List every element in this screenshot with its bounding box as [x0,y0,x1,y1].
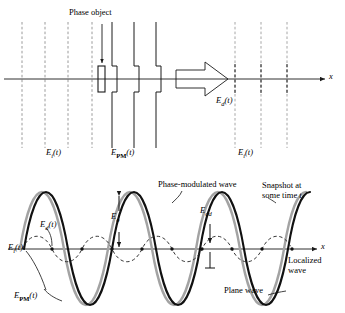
output-wavefront-stubs [235,64,287,95]
incident-field-label: Ei(t) [46,148,61,159]
snapshot-annotation: Snapshot at some time t [262,181,302,201]
phase-object-label: Phase object [69,8,112,18]
pm-field-label: EPM(t) [111,148,134,159]
phase-modulated-wavefronts [112,22,161,148]
incident-wavefronts [22,22,92,148]
top-axis-label: x [329,72,333,82]
diffracted-field-label: Ed(t) [216,96,232,107]
bottom-axis-label: x [321,242,325,252]
leader-Ei [26,251,46,290]
leader-Epm [44,289,62,301]
pm-wave-curve-label: EPM(t) [14,291,37,302]
amplitude-Eod-arrow [205,224,215,268]
diffracted-wave-curve-label: Ed(t) [40,220,56,231]
phase-modulated-wave-annotation: Phase-modulated wave [158,180,237,190]
figure-root: Phase object Ei(t) EPM(t) Ed(t) Ei(t) x … [0,0,345,313]
leader-phase-modulated [172,191,182,203]
incident-wave-curve-label: Ei(t) [8,243,23,254]
output-field-label: Ei(t) [238,148,253,159]
plane-wave-annotation: Plane wave [224,286,263,296]
amplitude-Eod-label: Eod [200,206,212,217]
localized-wave-annotation: Localized wave [288,256,322,276]
amplitude-Eo-label: Eo [111,212,119,223]
phase-modulated-wave-curve [24,192,310,305]
